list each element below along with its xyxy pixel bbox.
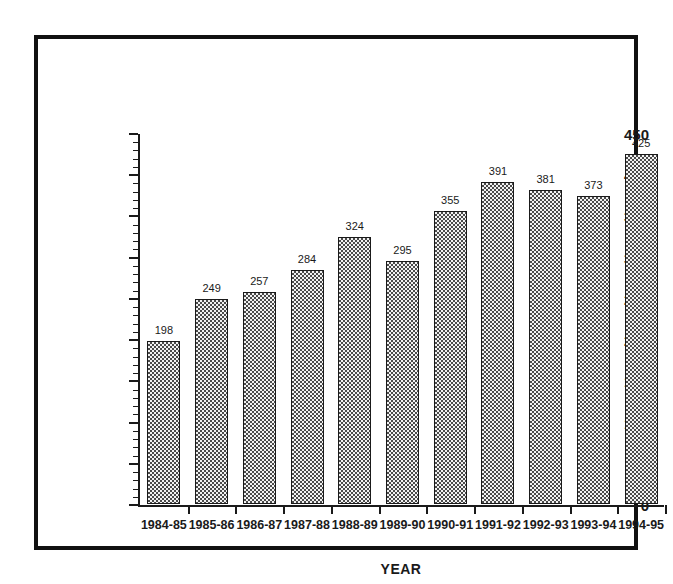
- bar: 324: [338, 237, 371, 504]
- y-axis-minor-tick: [133, 456, 138, 457]
- x-axis-tick: [474, 505, 476, 514]
- y-axis-minor-tick: [133, 150, 138, 151]
- bar: 373: [577, 196, 610, 504]
- bar-value-label: 373: [584, 179, 602, 191]
- y-axis-minor-tick: [133, 266, 138, 267]
- x-axis-title: YEAR: [138, 561, 664, 577]
- x-axis-category-label: 1984-85: [141, 518, 187, 532]
- y-axis-minor-tick: [133, 324, 138, 325]
- bar-value-label: 355: [441, 194, 459, 206]
- x-axis-category-label: 1990-91: [427, 518, 473, 532]
- bar-value-label: 257: [250, 275, 268, 287]
- y-axis-minor-tick: [133, 233, 138, 234]
- chart-figure: 050100150200250300350400450 198249257284…: [0, 0, 673, 584]
- y-axis-major-tick: [129, 215, 138, 217]
- x-axis-line: [138, 505, 664, 507]
- y-axis-minor-tick: [133, 373, 138, 374]
- bar-value-label: 381: [536, 173, 554, 185]
- bar-value-label: 425: [632, 137, 650, 149]
- bar-value-label: 295: [393, 244, 411, 256]
- y-axis-minor-tick: [133, 291, 138, 292]
- bar: 425: [625, 154, 658, 504]
- y-axis-minor-tick: [133, 472, 138, 473]
- y-axis-minor-tick: [133, 200, 138, 201]
- bar-value-label: 391: [489, 165, 507, 177]
- y-axis-minor-tick: [133, 348, 138, 349]
- y-axis-minor-tick: [133, 439, 138, 440]
- bar: 391: [481, 182, 514, 504]
- x-axis-category-label: 1994-95: [618, 518, 664, 532]
- bar: 249: [195, 299, 228, 504]
- y-axis-minor-tick: [133, 414, 138, 415]
- y-axis-major-tick: [129, 257, 138, 259]
- bar: 198: [147, 341, 180, 504]
- figure-frame-border: 050100150200250300350400450 198249257284…: [34, 35, 638, 550]
- y-axis-major-tick: [129, 380, 138, 382]
- y-axis-minor-tick: [133, 159, 138, 160]
- x-axis-category-label: 1991-92: [475, 518, 521, 532]
- y-axis-minor-tick: [133, 398, 138, 399]
- y-axis-minor-tick: [133, 192, 138, 193]
- x-axis-tick: [331, 505, 333, 514]
- x-axis-tick: [235, 505, 237, 514]
- y-axis-minor-tick: [133, 307, 138, 308]
- y-axis-minor-tick: [133, 183, 138, 184]
- x-axis-category-label: 1992-93: [523, 518, 569, 532]
- y-axis-minor-tick: [133, 142, 138, 143]
- bar: 355: [434, 211, 467, 504]
- y-axis-minor-tick: [133, 497, 138, 498]
- y-axis-minor-tick: [133, 489, 138, 490]
- y-axis-minor-tick: [133, 274, 138, 275]
- x-axis-category-label: 1986-87: [236, 518, 282, 532]
- x-axis-category-label: 1993-94: [570, 518, 616, 532]
- y-axis-major-tick: [129, 174, 138, 176]
- y-axis-minor-tick: [133, 282, 138, 283]
- y-axis-minor-tick: [133, 208, 138, 209]
- y-axis-major-tick: [129, 339, 138, 341]
- x-axis-tick: [570, 505, 572, 514]
- x-axis-category-label: 1985-86: [189, 518, 235, 532]
- y-axis-minor-tick: [133, 447, 138, 448]
- y-axis-minor-tick: [133, 357, 138, 358]
- y-axis-minor-tick: [133, 249, 138, 250]
- y-axis-minor-tick: [133, 167, 138, 168]
- x-axis-category-label: 1987-88: [284, 518, 330, 532]
- x-axis-tick: [617, 505, 619, 514]
- y-axis-major-tick: [129, 133, 138, 135]
- y-axis-minor-tick: [133, 332, 138, 333]
- y-axis-minor-tick: [133, 431, 138, 432]
- x-axis-tick: [188, 505, 190, 514]
- y-axis-minor-tick: [133, 225, 138, 226]
- y-axis-minor-tick: [133, 390, 138, 391]
- bar: 381: [529, 190, 562, 504]
- y-axis-major-tick: [129, 463, 138, 465]
- x-axis-tick: [426, 505, 428, 514]
- bar-value-label: 198: [155, 324, 173, 336]
- y-axis-minor-tick: [133, 480, 138, 481]
- x-axis-tick: [283, 505, 285, 514]
- y-axis-major-tick: [129, 422, 138, 424]
- bar-value-label: 324: [346, 220, 364, 232]
- bar: 257: [243, 292, 276, 504]
- y-axis-line: [138, 134, 140, 506]
- bar-value-label: 284: [298, 253, 316, 265]
- x-axis-tick: [379, 505, 381, 514]
- plot-area: 050100150200250300350400450 198249257284…: [138, 134, 663, 505]
- y-axis-minor-tick: [133, 406, 138, 407]
- x-axis-category-label: 1988-89: [332, 518, 378, 532]
- x-axis-tick: [522, 505, 524, 514]
- y-axis-major-tick: [129, 298, 138, 300]
- bar: 284: [291, 270, 324, 504]
- x-axis-tick: [665, 505, 667, 514]
- bar: 295: [386, 261, 419, 504]
- bar-value-label: 249: [202, 282, 220, 294]
- y-axis-minor-tick: [133, 241, 138, 242]
- y-axis-minor-tick: [133, 365, 138, 366]
- x-axis-category-label: 1989-90: [380, 518, 426, 532]
- y-axis-minor-tick: [133, 315, 138, 316]
- y-axis-major-tick: [129, 504, 138, 506]
